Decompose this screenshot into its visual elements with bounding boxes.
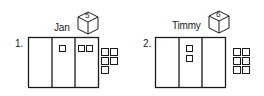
loose-squares	[0, 0, 264, 96]
